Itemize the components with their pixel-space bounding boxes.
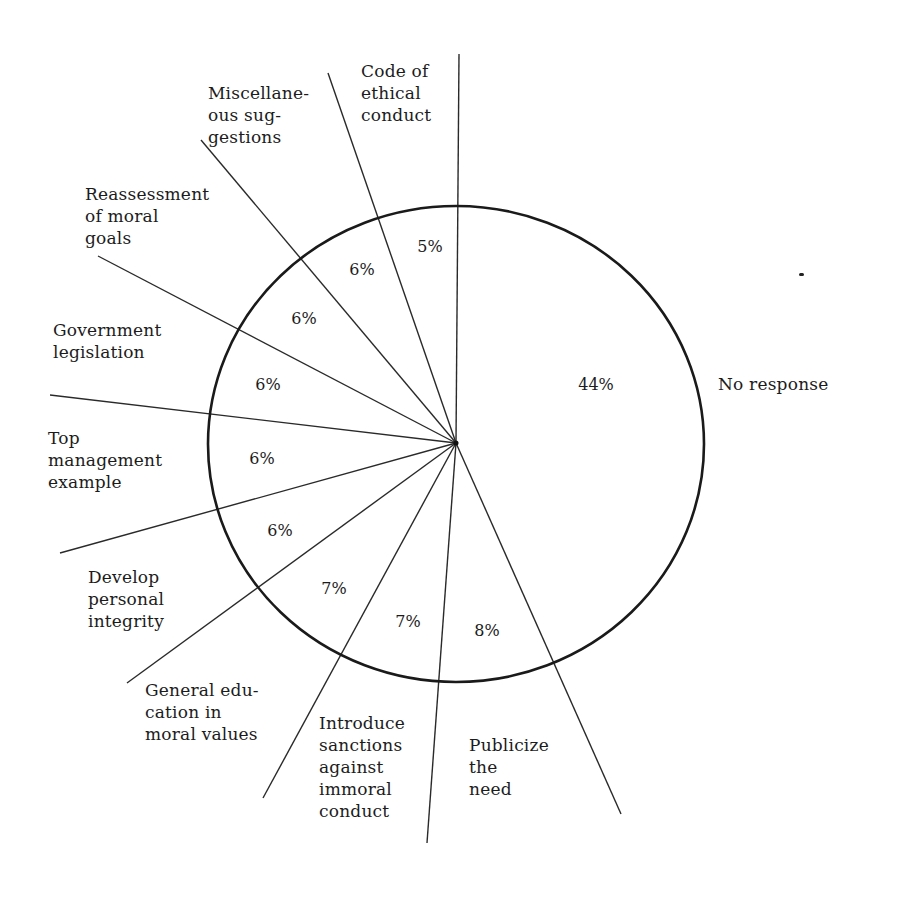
label-government-legislation: Government legislation <box>53 319 162 363</box>
label-develop-personal-integrity: Develop personal integrity <box>88 566 164 632</box>
pct-reassessment-of-moral-goals: 6% <box>291 310 316 328</box>
pct-develop-personal-integrity: 6% <box>267 522 292 540</box>
label-no-response: No response <box>718 373 828 395</box>
pct-general-education: 7% <box>321 580 346 598</box>
label-top-management-example: Top management example <box>48 427 162 493</box>
label-introduce-sanctions: Introduce sanctions against immoral cond… <box>319 712 405 822</box>
pct-code-of-ethical-conduct: 5% <box>417 238 442 256</box>
label-reassessment-of-moral-goals: Reassessment of moral goals <box>85 183 209 249</box>
pct-publicize-the-need: 8% <box>474 622 499 640</box>
slice-boundary-line <box>127 443 456 683</box>
label-general-education-in-moral-values: General edu- cation in moral values <box>145 679 259 745</box>
print-speck <box>799 273 804 276</box>
pct-introduce-sanctions: 7% <box>395 613 420 631</box>
pie-center <box>454 441 459 446</box>
slice-boundary-line <box>201 140 456 443</box>
slice-boundary-line <box>328 73 456 443</box>
pct-government-legislation: 6% <box>255 376 280 394</box>
label-miscellaneous-suggestions: Miscellane- ous sug- gestions <box>208 82 309 148</box>
label-code-of-ethical-conduct: Code of ethical conduct <box>361 60 431 126</box>
pct-top-management-example: 6% <box>249 450 274 468</box>
label-publicize-the-need: Publicize the need <box>469 734 549 800</box>
slice-boundary-line <box>456 54 459 443</box>
pct-no-response: 44% <box>578 376 614 394</box>
pct-miscellaneous-suggestions: 6% <box>349 261 374 279</box>
slice-boundary-line <box>427 443 456 843</box>
